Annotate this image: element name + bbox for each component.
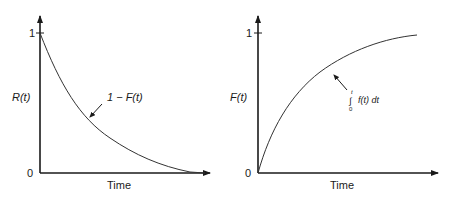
- unreliability-chart: 1 0 F(t) ∫ t 0 f(t) dt Time: [230, 16, 438, 191]
- cumulative-failure-curve: [258, 35, 417, 173]
- tick-label-zero: 0: [27, 167, 33, 179]
- integral-symbol: ∫: [348, 96, 353, 106]
- x-axis-label: Time: [330, 179, 354, 191]
- reliability-curve: [40, 33, 205, 173]
- reliability-chart: 1 0 R(t) 1 − F(t) Time: [12, 16, 210, 191]
- integral-lower-limit: 0: [349, 106, 353, 112]
- integrand-label: f(t) dt: [358, 95, 380, 105]
- annotation-arrow: [334, 75, 347, 90]
- annotation-arrow: [90, 104, 102, 117]
- tick-label-one: 1: [29, 27, 35, 39]
- reliability-charts: 1 0 R(t) 1 − F(t) Time 1 0 F(t) ∫ t 0 f(…: [0, 0, 452, 200]
- annotation-label: 1 − F(t): [107, 91, 143, 103]
- tick-label-one: 1: [246, 27, 252, 39]
- x-axis-label: Time: [107, 179, 131, 191]
- integral-upper-limit: t: [351, 89, 353, 95]
- y-axis-label: F(t): [230, 91, 247, 103]
- y-axis-label: R(t): [12, 91, 31, 103]
- tick-label-zero: 0: [245, 167, 251, 179]
